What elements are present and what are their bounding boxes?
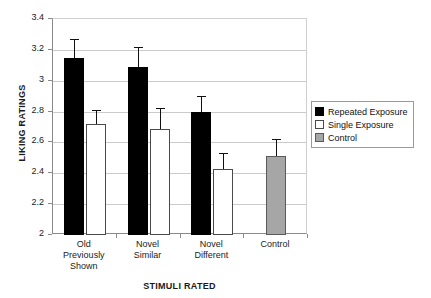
error-bar bbox=[197, 96, 206, 111]
y-tick-label: 2.4 bbox=[4, 166, 44, 176]
error-bar-cap-top bbox=[272, 139, 281, 140]
bar bbox=[150, 129, 170, 235]
y-tick-label: 3.4 bbox=[4, 12, 44, 22]
legend-swatch-icon bbox=[315, 107, 324, 116]
legend-item: Repeated Exposure bbox=[315, 105, 408, 118]
error-bar-stem bbox=[74, 39, 75, 58]
error-bar bbox=[70, 39, 79, 58]
error-bar-cap-top bbox=[92, 110, 101, 111]
error-bar bbox=[134, 47, 143, 67]
y-tick-label: 2.2 bbox=[4, 197, 44, 207]
plot-area bbox=[52, 18, 307, 234]
error-bar bbox=[272, 139, 281, 156]
x-category-label: Old Previously Shown bbox=[52, 239, 116, 272]
legend-swatch-icon bbox=[315, 120, 324, 129]
legend-swatch-icon bbox=[315, 133, 324, 142]
error-bar-stem bbox=[138, 47, 139, 67]
y-tick-label: 3 bbox=[4, 74, 44, 84]
error-bar-cap-top bbox=[70, 39, 79, 40]
error-bar-cap-top bbox=[219, 153, 228, 154]
y-tick-label: 3.2 bbox=[4, 43, 44, 53]
x-category-label: Novel Different bbox=[180, 239, 244, 261]
error-bar-stem bbox=[201, 96, 202, 111]
x-tick-mark bbox=[116, 234, 117, 238]
legend-label: Repeated Exposure bbox=[328, 107, 408, 117]
x-category-label: Control bbox=[243, 239, 307, 250]
error-bar-cap-top bbox=[156, 108, 165, 109]
error-bar-stem bbox=[96, 110, 97, 124]
error-bar bbox=[156, 108, 165, 128]
bar bbox=[191, 112, 211, 235]
bar bbox=[64, 58, 84, 235]
error-bar-cap-top bbox=[197, 96, 206, 97]
legend-label: Control bbox=[328, 133, 357, 143]
error-bar bbox=[219, 153, 228, 168]
y-tick-mark bbox=[48, 234, 52, 235]
x-axis-title: STIMULI RATED bbox=[52, 281, 307, 291]
bar bbox=[128, 67, 148, 235]
legend-label: Single Exposure bbox=[328, 120, 394, 130]
legend-item: Single Exposure bbox=[315, 118, 408, 131]
bar-chart-figure: LIKING RATINGS 3.43.232.82.62.42.22 Old … bbox=[0, 0, 431, 298]
error-bar bbox=[92, 110, 101, 124]
bar bbox=[266, 156, 286, 235]
legend: Repeated ExposureSingle ExposureControl bbox=[311, 101, 414, 148]
legend-item: Control bbox=[315, 131, 408, 144]
x-tick-mark bbox=[243, 234, 244, 238]
x-tick-mark bbox=[307, 234, 308, 238]
bar bbox=[213, 169, 233, 235]
y-tick-label: 2.6 bbox=[4, 135, 44, 145]
gridline bbox=[53, 50, 306, 51]
error-bar-cap-top bbox=[134, 47, 143, 48]
error-bar-stem bbox=[223, 153, 224, 168]
x-tick-mark bbox=[180, 234, 181, 238]
y-tick-label: 2 bbox=[4, 228, 44, 238]
x-category-label: Novel Similar bbox=[116, 239, 180, 261]
error-bar-stem bbox=[276, 139, 277, 156]
bar bbox=[86, 124, 106, 235]
gridline bbox=[53, 81, 306, 82]
y-tick-label: 2.8 bbox=[4, 105, 44, 115]
error-bar-stem bbox=[160, 108, 161, 128]
